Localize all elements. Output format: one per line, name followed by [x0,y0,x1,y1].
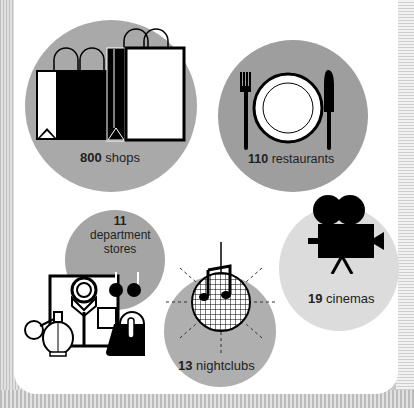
cinemas-label: 19 cinemas [308,291,375,306]
shops-label: 800 shops [80,150,140,165]
nightclubs-count: 13 [178,358,192,373]
cinemas-count: 19 [308,291,322,306]
restaurants-label: 110 restaurants [248,152,334,166]
nightclubs-label: 13 nightclubs [178,358,255,373]
film-camera-icon [304,194,384,274]
disco-ball-music-note-icon [166,240,276,358]
restaurants-count: 110 [248,152,268,166]
department-stores-text: department stores [90,228,151,256]
shirt-perfume-handbag-icon [20,268,145,358]
cinemas-text: cinemas [326,291,374,306]
shopping-bags-icon [34,28,186,142]
restaurants-text: restaurants [272,152,335,166]
shops-count: 800 [80,150,102,165]
frame-texture-right [396,0,414,408]
department-stores-label: 11department stores [90,214,150,256]
shops-text: shops [105,150,140,165]
department-stores-count: 11 [114,214,127,228]
nightclubs-text: nightclubs [196,358,255,373]
plate-fork-knife-icon [240,68,340,150]
